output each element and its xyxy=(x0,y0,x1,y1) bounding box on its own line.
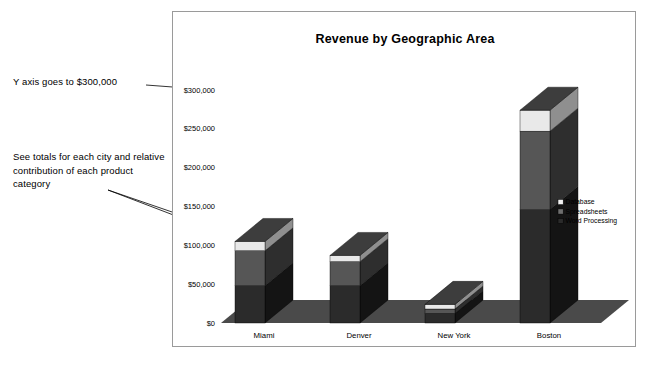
stacked-bar xyxy=(520,87,578,323)
stacked-bar xyxy=(235,218,293,323)
bar-segment-front xyxy=(330,262,360,286)
chart-legend: DatabaseSpreadsheetsWord Processing xyxy=(558,198,617,225)
bar-segment-front xyxy=(235,251,265,286)
bar-segment-front xyxy=(520,110,550,131)
bar-segment-front xyxy=(330,286,360,323)
legend-label: Spreadsheets xyxy=(566,208,609,216)
bar-segment-front xyxy=(520,131,550,209)
y-axis-tick-label: $200,000 xyxy=(184,163,215,172)
y-axis-tick-label: $300,000 xyxy=(184,86,215,95)
bar-group xyxy=(235,87,578,323)
bar-segment-front xyxy=(330,255,360,261)
bar-segment-front xyxy=(235,286,265,323)
chart-plot-area: $0$50,000$100,000$150,000$200,000$250,00… xyxy=(173,12,637,348)
annotation-totals-note: See totals for each city and relative co… xyxy=(13,150,168,191)
legend-swatch xyxy=(558,199,563,204)
chart-frame: Revenue by Geographic Area $0$50,000$100… xyxy=(172,11,636,347)
legend-label: Database xyxy=(566,198,595,205)
x-axis-category-label: Denver xyxy=(346,331,372,340)
legend-swatch xyxy=(558,218,563,223)
y-axis-tick-label: $100,000 xyxy=(184,241,215,250)
x-axis-category-label: Miami xyxy=(254,331,275,340)
y-axis-tick-label: $250,000 xyxy=(184,124,215,133)
x-axis-category-labels: MiamiDenverNew YorkBoston xyxy=(254,331,562,340)
bar-segment-front xyxy=(235,241,265,250)
legend-swatch xyxy=(558,209,563,214)
y-axis-tick-label: $50,000 xyxy=(188,280,215,289)
annotation-y-axis-note: Y axis goes to $300,000 xyxy=(13,75,163,89)
y-axis-tick-labels: $0$50,000$100,000$150,000$200,000$250,00… xyxy=(184,86,215,328)
x-axis-category-label: Boston xyxy=(537,331,561,340)
bar-segment-front xyxy=(425,314,455,323)
y-axis-tick-label: $150,000 xyxy=(184,202,215,211)
legend-label: Word Processing xyxy=(566,217,618,225)
y-axis-tick-label: $0 xyxy=(207,319,215,328)
chart-screenshot: Y axis goes to $300,000 See totals for e… xyxy=(0,0,647,388)
x-axis-category-label: New York xyxy=(438,331,471,340)
bar-segment-front xyxy=(425,304,455,309)
bar-segment-front xyxy=(425,309,455,314)
bar-segment-front xyxy=(520,210,550,323)
